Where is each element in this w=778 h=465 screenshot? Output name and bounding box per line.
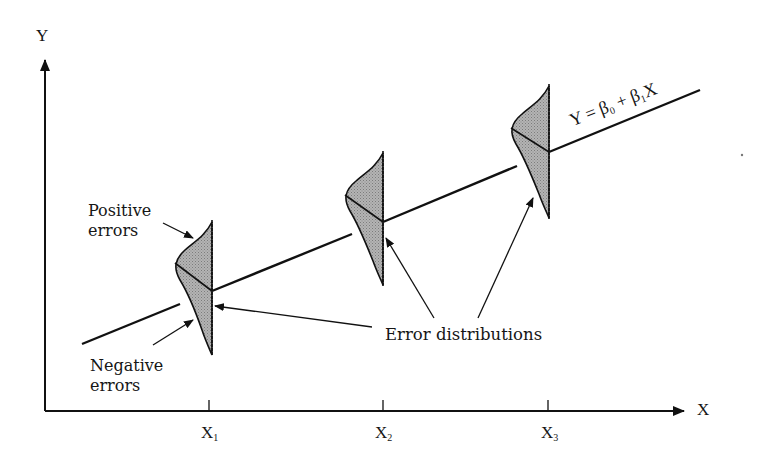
tick-label-x1: X1 xyxy=(201,423,218,448)
negative-errors-label: Negative errors xyxy=(90,356,163,396)
label-line: Negative xyxy=(90,356,163,376)
x-axis-label: X xyxy=(697,400,709,420)
regression-line xyxy=(82,90,700,344)
error-distribution-2 xyxy=(345,151,383,286)
positive-errors-label: Positive errors xyxy=(88,201,151,241)
error-distribution-1 xyxy=(175,220,212,356)
label-line: errors xyxy=(88,221,151,241)
tick-label-x3: X3 xyxy=(541,423,558,448)
scan-speck xyxy=(741,154,743,156)
label-line: Positive xyxy=(88,201,151,221)
tick-subscript: 3 xyxy=(553,432,558,443)
tick-subscript: 2 xyxy=(387,432,392,443)
tick-label-x2: X2 xyxy=(375,423,392,448)
tick-base: X xyxy=(375,423,387,442)
tick-base: X xyxy=(201,423,213,442)
tick-subscript: 1 xyxy=(213,432,218,443)
y-axis-label: Y xyxy=(36,26,48,46)
error-distributions-label: Error distributions xyxy=(385,325,542,345)
x-ticks xyxy=(209,400,548,411)
error-distribution-3 xyxy=(511,84,549,219)
tick-base: X xyxy=(541,423,553,442)
label-line: errors xyxy=(90,376,163,396)
